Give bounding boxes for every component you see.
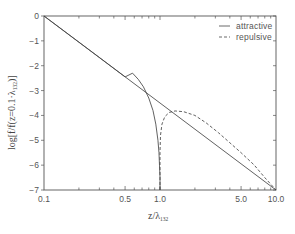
- y-tick-label: −3: [29, 86, 39, 96]
- y-tick-label: −2: [29, 61, 39, 71]
- y-tick-label: −6: [29, 160, 39, 170]
- y-tick-label: −7: [29, 185, 39, 195]
- x-tick-label: 10.0: [268, 194, 285, 204]
- x-axis-label: z/λ132: [148, 210, 169, 222]
- x-tick-label: 0.1: [38, 194, 50, 204]
- y-tick-label: −4: [29, 110, 39, 120]
- legend: attractive repulsive: [219, 21, 273, 42]
- x-tick-label: 1.0: [154, 194, 166, 204]
- legend-attractive-label: attractive: [236, 21, 273, 31]
- series-attractive: [44, 16, 160, 190]
- y-tick-label: 0: [34, 11, 39, 21]
- y-tick-label: −5: [29, 135, 39, 145]
- y-axis-label: log[f/f(z=0.1·λ132)]: [6, 75, 18, 150]
- y-tick-label: −1: [29, 36, 39, 46]
- data-series: [44, 16, 276, 190]
- y-tick-labels: 0−1−2−3−4−5−6−7: [29, 11, 39, 195]
- x-tick-labels: 0.10.51.05.010.0: [38, 194, 284, 204]
- legend-repulsive-label: repulsive: [236, 32, 272, 42]
- chart: 0.10.51.05.010.0 0−1−2−3−4−5−6−7 attract…: [0, 0, 295, 234]
- x-tick-label: 0.5: [119, 194, 131, 204]
- x-tick-label: 5.0: [235, 194, 247, 204]
- series-repulsive: [160, 111, 276, 190]
